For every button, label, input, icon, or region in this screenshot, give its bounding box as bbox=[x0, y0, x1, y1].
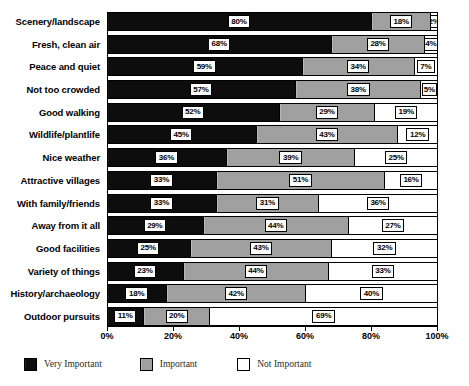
category-label: Good facilities bbox=[0, 239, 103, 258]
y-axis-line bbox=[107, 12, 108, 326]
bar-segment: 36% bbox=[107, 149, 226, 166]
bar-segment: 29% bbox=[279, 104, 375, 121]
bar-segment: 7% bbox=[414, 58, 437, 75]
bar-value-label: 68% bbox=[208, 38, 230, 51]
bar-value-label: 27% bbox=[382, 219, 404, 232]
bar-value-label: 36% bbox=[367, 197, 389, 210]
bar-row: 59%34%7% bbox=[107, 57, 437, 76]
bar-segment: 43% bbox=[256, 126, 398, 143]
category-label: Attractive villages bbox=[0, 171, 103, 190]
bar-segment: 69% bbox=[209, 308, 437, 325]
bar-segment: 29% bbox=[107, 217, 203, 234]
bar-rows: 80%18%2%68%28%4%59%34%7%57%38%5%52%29%19… bbox=[107, 12, 437, 326]
bar-value-label: 29% bbox=[316, 106, 338, 119]
bar-segment: 11% bbox=[107, 308, 143, 325]
bar-value-label: 57% bbox=[190, 83, 212, 96]
bar-segment: 18% bbox=[107, 285, 166, 302]
bar-value-label: 23% bbox=[134, 265, 156, 278]
bar-segment: 27% bbox=[348, 217, 437, 234]
bar-value-label: 2% bbox=[430, 15, 437, 28]
bar-segment: 40% bbox=[305, 285, 437, 302]
bar-row: 36%39%25% bbox=[107, 148, 437, 167]
bar-value-label: 32% bbox=[373, 242, 395, 255]
bar-value-label: 43% bbox=[250, 242, 272, 255]
bar-segment: 38% bbox=[295, 81, 420, 98]
legend-item[interactable]: Not Important bbox=[237, 358, 311, 371]
x-axis-tick-label: 40% bbox=[230, 331, 248, 341]
bar-value-label: 11% bbox=[114, 310, 136, 323]
bar-value-label: 28% bbox=[367, 38, 389, 51]
bar-row: 80%18%2% bbox=[107, 12, 437, 31]
bar-row: 52%29%19% bbox=[107, 103, 437, 122]
bar-row: 57%38%5% bbox=[107, 80, 437, 99]
x-axis-tick-labels: 0%20%40%60%80%100% bbox=[0, 331, 469, 345]
bar-value-label: 59% bbox=[193, 60, 215, 73]
bar-value-label: 25% bbox=[137, 242, 159, 255]
bar-value-label: 45% bbox=[170, 128, 192, 141]
bar-value-label: 29% bbox=[144, 219, 166, 232]
bar-segment: 5% bbox=[420, 81, 437, 98]
bar-segment: 16% bbox=[384, 172, 437, 189]
bar-segment: 36% bbox=[318, 195, 437, 212]
bar-segment: 28% bbox=[331, 36, 423, 53]
bar-value-label: 52% bbox=[182, 106, 204, 119]
bar-segment: 44% bbox=[203, 217, 348, 234]
bar-segment: 33% bbox=[107, 172, 216, 189]
bar-segment: 43% bbox=[190, 240, 332, 257]
bar-segment: 57% bbox=[107, 81, 295, 98]
bar-row: 68%28%4% bbox=[107, 35, 437, 54]
bar-row: 33%51%16% bbox=[107, 171, 437, 190]
category-label: With family/friends bbox=[0, 194, 103, 213]
bar-segment: 32% bbox=[331, 240, 437, 257]
bar-value-label: 7% bbox=[417, 60, 435, 73]
category-label: Peace and quiet bbox=[0, 57, 103, 76]
x-axis-tick-label: 60% bbox=[296, 331, 314, 341]
bar-segment: 25% bbox=[354, 149, 437, 166]
bar-segment: 31% bbox=[216, 195, 318, 212]
bar-row: 33%31%36% bbox=[107, 194, 437, 213]
bar-value-label: 12% bbox=[406, 128, 428, 141]
bar-segment: 18% bbox=[371, 13, 430, 30]
bar-segment: 23% bbox=[107, 263, 183, 280]
category-axis-labels: Scenery/landscapeFresh, clean airPeace a… bbox=[0, 12, 103, 326]
bar-segment: 80% bbox=[107, 13, 371, 30]
bar-segment: 52% bbox=[107, 104, 279, 121]
stacked-bar-chart: Scenery/landscapeFresh, clean airPeace a… bbox=[0, 0, 469, 386]
bar-segment: 34% bbox=[302, 58, 414, 75]
bar-row: 29%44%27% bbox=[107, 216, 437, 235]
bar-segment: 42% bbox=[166, 285, 305, 302]
category-label: Outdoor pursuits bbox=[0, 307, 103, 326]
legend-label: Not Important bbox=[257, 359, 311, 369]
legend-item[interactable]: Very Important bbox=[24, 358, 102, 371]
x-axis-tick-label: 0% bbox=[100, 331, 113, 341]
legend-label: Very Important bbox=[44, 359, 102, 369]
plot-right-border bbox=[437, 12, 438, 326]
bar-value-label: 43% bbox=[316, 128, 338, 141]
bar-segment: 33% bbox=[328, 263, 437, 280]
bar-value-label: 36% bbox=[155, 151, 177, 164]
bar-value-label: 34% bbox=[347, 60, 369, 73]
x-axis-tick-label: 100% bbox=[425, 331, 448, 341]
bar-value-label: 18% bbox=[125, 287, 147, 300]
bar-value-label: 44% bbox=[245, 265, 267, 278]
category-label: Wildlife/plantlife bbox=[0, 125, 103, 144]
bar-segment: 44% bbox=[183, 263, 328, 280]
bar-value-label: 31% bbox=[256, 197, 278, 210]
category-label: Good walking bbox=[0, 103, 103, 122]
bar-value-label: 69% bbox=[312, 310, 334, 323]
bar-value-label: 33% bbox=[150, 197, 172, 210]
bar-segment: 25% bbox=[107, 240, 190, 257]
bar-row: 23%44%33% bbox=[107, 262, 437, 281]
chart-legend: Very ImportantImportantNot Important bbox=[24, 352, 444, 376]
x-axis-tick-label: 20% bbox=[164, 331, 182, 341]
bar-row: 25%43%32% bbox=[107, 239, 437, 258]
category-label: History/archaeology bbox=[0, 284, 103, 303]
category-label: Nice weather bbox=[0, 148, 103, 167]
bar-segment: 45% bbox=[107, 126, 256, 143]
category-label: Fresh, clean air bbox=[0, 35, 103, 54]
legend-item[interactable]: Important bbox=[140, 358, 197, 371]
bar-segment: 68% bbox=[107, 36, 331, 53]
bar-value-label: 40% bbox=[360, 287, 382, 300]
legend-swatch-icon bbox=[237, 358, 250, 371]
bar-value-label: 44% bbox=[265, 219, 287, 232]
